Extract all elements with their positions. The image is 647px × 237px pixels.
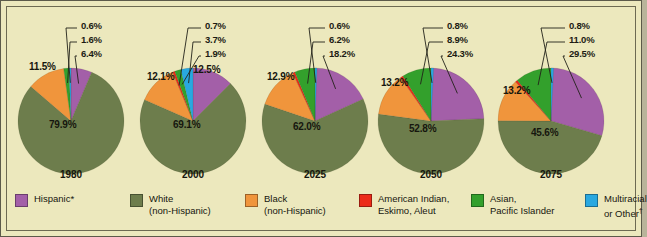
legend-footnote-marker: †: [639, 207, 643, 214]
slice-value-1980: 79.9%: [49, 119, 76, 130]
legend-swatch-american-indian: [359, 194, 372, 207]
legend-swatch-multiracial-other: [585, 194, 598, 207]
slice-value-2025: 62.0%: [293, 121, 320, 132]
legend-label-multiracial-other: Multiracialor Other†: [604, 193, 647, 219]
pie-year-label-2050: 2050: [369, 169, 493, 180]
pie-panel-2050: 0.8%8.9%24.3%13.2%52.8%2050: [369, 9, 493, 187]
legend-swatch-black-non-hispanic: [245, 194, 258, 207]
slice-value-2050: 52.8%: [409, 123, 436, 134]
slice-callout-2050: 8.9%: [447, 34, 468, 45]
pie-panel-2025: 0.6%6.2%18.2%12.9%62.0%2025: [253, 9, 377, 187]
pie-svg-2050: [369, 9, 493, 187]
slice-value-1980: 11.5%: [29, 61, 56, 72]
slice-callout-2075: 0.8%: [569, 20, 590, 31]
chart-legend: Hispanic*White(non-Hispanic)Black(non-Hi…: [1, 187, 643, 233]
slice-value-2075: 13.2%: [503, 85, 530, 96]
legend-label-asian-pacific-islander: Asian,Pacific Islander: [490, 193, 554, 216]
legend-swatch-asian-pacific-islander: [471, 194, 484, 207]
pie-svg-2025: [253, 9, 377, 187]
slice-value-2075: 45.6%: [531, 127, 558, 138]
legend-item-black-non-hispanic[interactable]: Black(non-Hispanic): [245, 193, 326, 216]
slice-callout-1980: 0.6%: [81, 20, 102, 31]
pie-year-label-1980: 1980: [9, 169, 133, 180]
pie-year-label-2025: 2025: [253, 169, 377, 180]
pie-panel-1980: 0.6%1.6%6.4%11.5%79.9%1980: [9, 9, 133, 187]
pie-panel-2000: 0.7%3.7%1.9%12.5%12.1%69.1%2000: [131, 9, 255, 187]
legend-item-hispanic[interactable]: Hispanic*: [15, 193, 74, 207]
pie-slice-2050-hispanic: [431, 68, 484, 121]
slice-value-2000: 12.1%: [147, 71, 174, 82]
slice-callout-2050: 24.3%: [447, 48, 473, 59]
slice-callout-2050: 0.8%: [447, 20, 468, 31]
slice-callout-2025: 6.2%: [329, 34, 350, 45]
legend-item-american-indian[interactable]: American Indian,Eskimo, Aleut: [359, 193, 449, 216]
slice-value-2000: 12.5%: [193, 64, 220, 75]
slice-callout-1980: 1.6%: [81, 34, 102, 45]
slice-callout-2000: 3.7%: [205, 34, 226, 45]
legend-label-white-non-hispanic: White(non-Hispanic): [149, 193, 211, 216]
legend-swatch-white-non-hispanic: [130, 194, 143, 207]
slice-value-2050: 13.2%: [381, 77, 408, 88]
pie-svg-1980: [9, 9, 133, 187]
legend-item-asian-pacific-islander[interactable]: Asian,Pacific Islander: [471, 193, 554, 216]
slice-callout-2075: 29.5%: [569, 48, 595, 59]
pie-svg-2000: [131, 9, 255, 187]
slice-callout-2025: 18.2%: [329, 48, 355, 59]
slice-callout-2000: 1.9%: [205, 48, 226, 59]
slice-value-2025: 12.9%: [267, 71, 294, 82]
legend-swatch-hispanic: [15, 194, 28, 207]
pie-panel-2075: 0.8%11.0%29.5%13.2%45.6%2075: [489, 9, 613, 187]
pie-year-label-2000: 2000: [131, 169, 255, 180]
legend-label-black-non-hispanic: Black(non-Hispanic): [264, 193, 326, 216]
pie-year-label-2075: 2075: [489, 169, 613, 180]
slice-callout-1980: 6.4%: [81, 48, 102, 59]
slice-callout-2000: 0.7%: [205, 20, 226, 31]
slice-value-2000: 69.1%: [173, 119, 200, 130]
legend-item-white-non-hispanic[interactable]: White(non-Hispanic): [130, 193, 211, 216]
legend-item-multiracial-other[interactable]: Multiracialor Other†: [585, 193, 647, 219]
legend-label-hispanic: Hispanic*: [34, 193, 74, 205]
slice-callout-2025: 0.6%: [329, 20, 350, 31]
legend-label-american-indian: American Indian,Eskimo, Aleut: [378, 193, 449, 216]
slice-callout-2075: 11.0%: [569, 34, 594, 45]
